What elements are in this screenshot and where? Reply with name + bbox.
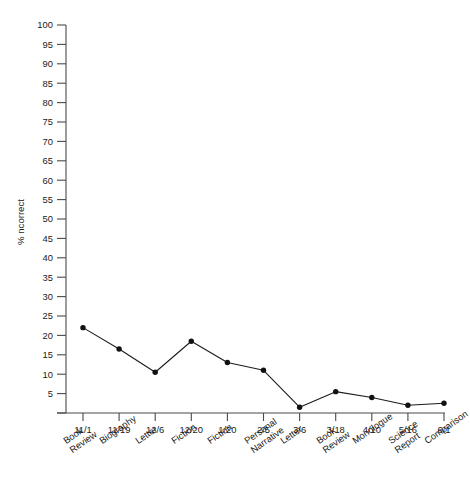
data-point-marker (261, 368, 266, 373)
data-point-marker (116, 346, 121, 351)
y-tick-label: 25 (43, 310, 53, 321)
y-tick-label: 85 (43, 78, 53, 89)
y-tick-label: 45 (43, 233, 53, 244)
y-tick-label: 40 (43, 252, 53, 263)
y-tick-label: 95 (43, 39, 53, 50)
y-tick-label: 55 (43, 194, 53, 205)
y-tick-label: 60 (43, 175, 53, 186)
y-tick-label: 100 (37, 19, 53, 30)
y-tick-label: 80 (43, 97, 53, 108)
y-tick-label: 35 (43, 272, 53, 283)
data-point-marker (405, 403, 410, 408)
data-point-marker (80, 325, 85, 330)
data-point-marker (441, 401, 446, 406)
data-point-marker (369, 395, 374, 400)
y-tick-label: 5 (48, 388, 53, 399)
y-tick-label: 30 (43, 291, 53, 302)
data-point-markers (80, 325, 446, 410)
y-tick-label: 70 (43, 136, 53, 147)
y-tick-label: 10 (43, 369, 53, 380)
y-tick-label: 65 (43, 155, 53, 166)
y-axis-ticks (57, 25, 66, 413)
data-point-marker (333, 389, 338, 394)
y-tick-label: 90 (43, 58, 53, 69)
y-axis-title: % ncorrect (15, 199, 26, 245)
y-axis-tick-labels: 1009590858075706560555045403530252015105 (37, 19, 53, 399)
data-point-marker (225, 360, 230, 365)
data-series-line (83, 328, 444, 408)
data-point-marker (153, 370, 158, 375)
y-tick-label: 50 (43, 213, 53, 224)
y-tick-label: 20 (43, 330, 53, 341)
data-point-marker (297, 404, 302, 409)
y-tick-label: 15 (43, 349, 53, 360)
data-point-marker (189, 339, 194, 344)
y-tick-label: 75 (43, 116, 53, 127)
